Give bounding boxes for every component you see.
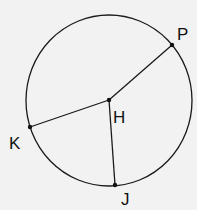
radius-hp — [109, 45, 172, 100]
circle-diagram: H P K J — [0, 0, 197, 210]
point-h — [107, 98, 111, 102]
radius-hk — [30, 100, 109, 127]
point-j — [113, 183, 117, 187]
label-h: H — [113, 108, 125, 127]
label-p: P — [177, 25, 188, 44]
point-p — [170, 43, 174, 47]
label-j: J — [121, 190, 130, 209]
label-k: K — [9, 134, 21, 153]
point-k — [28, 125, 32, 129]
